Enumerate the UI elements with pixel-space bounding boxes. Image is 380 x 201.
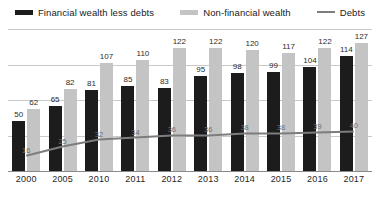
x-axis-tick-label: 2016 <box>299 174 335 190</box>
chart-legend: Financial wealth less debts Non-financia… <box>0 0 380 24</box>
bar-value-label: 120 <box>245 39 258 48</box>
bar-financial-wealth-less-debts: 85 <box>121 86 134 172</box>
x-axis-tick-label: 2015 <box>263 174 299 190</box>
bar-value-label: 110 <box>137 49 150 58</box>
bar-value-label: 122 <box>209 37 222 46</box>
bar-value-label: 65 <box>51 95 60 104</box>
bar-value-label: 85 <box>123 75 132 84</box>
bar-non-financial-wealth: 127 <box>355 43 368 172</box>
bar-value-label: 122 <box>173 37 186 46</box>
bar-non-financial-wealth: 82 <box>64 89 77 172</box>
bar-value-label: 82 <box>66 78 75 87</box>
bar-financial-wealth-less-debts: 98 <box>231 73 244 172</box>
x-axis-tick-labels: 2000200520102011201220132014201520162017 <box>8 174 372 190</box>
legend-swatch-icon-financial <box>15 10 33 15</box>
bar-value-label: 114 <box>340 45 353 54</box>
legend-item-non-financial-wealth: Non-financial wealth <box>180 7 291 18</box>
bar-group: 99117 <box>263 30 299 172</box>
x-axis-tick-label: 2011 <box>117 174 153 190</box>
bar-group: 5062 <box>8 30 44 172</box>
x-axis-tick-label: 2017 <box>336 174 372 190</box>
x-axis-line <box>8 171 372 172</box>
bar-financial-wealth-less-debts: 114 <box>340 56 353 172</box>
x-axis-tick-label: 2013 <box>190 174 226 190</box>
legend-item-financial-wealth-less-debts: Financial wealth less debts <box>15 7 154 18</box>
bar-value-label: 62 <box>29 98 38 107</box>
bar-group: 6582 <box>44 30 80 172</box>
bar-financial-wealth-less-debts: 104 <box>303 67 316 172</box>
bar-non-financial-wealth: 117 <box>282 53 295 172</box>
legend-label-financial: Financial wealth less debts <box>38 7 154 18</box>
bar-non-financial-wealth: 120 <box>246 50 259 172</box>
bar-non-financial-wealth: 110 <box>136 60 149 172</box>
x-axis-tick-label: 2014 <box>226 174 262 190</box>
bar-non-financial-wealth: 122 <box>318 48 331 172</box>
bar-value-label: 81 <box>87 79 96 88</box>
bar-value-label: 107 <box>100 52 113 61</box>
bar-non-financial-wealth: 122 <box>209 48 222 172</box>
x-axis-tick-label: 2000 <box>8 174 44 190</box>
x-axis-tick-label: 2010 <box>81 174 117 190</box>
legend-swatch-icon-nonfinancial <box>180 10 198 15</box>
x-axis-tick-label: 2012 <box>154 174 190 190</box>
legend-label-nonfinancial: Non-financial wealth <box>203 7 291 18</box>
bar-group: 95122 <box>190 30 226 172</box>
bar-value-label: 117 <box>282 42 295 51</box>
legend-swatch-icon-debts <box>317 11 335 13</box>
bar-financial-wealth-less-debts: 65 <box>49 106 62 172</box>
bar-group: 114127 <box>336 30 372 172</box>
bar-financial-wealth-less-debts: 83 <box>158 88 171 172</box>
bar-group: 83122 <box>154 30 190 172</box>
x-axis-tick-label: 2005 <box>44 174 80 190</box>
bar-non-financial-wealth: 107 <box>100 63 113 172</box>
bar-group: 98120 <box>226 30 262 172</box>
bar-value-label: 98 <box>233 62 242 71</box>
bar-value-label: 95 <box>196 65 205 74</box>
bar-value-label: 122 <box>318 37 331 46</box>
bar-financial-wealth-less-debts: 81 <box>85 90 98 172</box>
bar-groups: 5062658281107851108312295122981209911710… <box>8 30 372 172</box>
legend-item-debts: Debts <box>317 7 365 18</box>
bar-non-financial-wealth: 122 <box>173 48 186 172</box>
bar-financial-wealth-less-debts: 99 <box>267 72 280 172</box>
bar-value-label: 104 <box>303 56 316 65</box>
chart-container: Financial wealth less debts Non-financia… <box>0 0 380 201</box>
bar-financial-wealth-less-debts: 50 <box>12 121 25 172</box>
bar-group: 104122 <box>299 30 335 172</box>
bar-value-label: 83 <box>160 77 169 86</box>
bar-group: 81107 <box>81 30 117 172</box>
bar-value-label: 99 <box>269 61 278 70</box>
bar-financial-wealth-less-debts: 95 <box>194 76 207 172</box>
plot-area: 5062658281107851108312295122981209911710… <box>8 30 372 172</box>
bar-group: 85110 <box>117 30 153 172</box>
bar-value-label: 127 <box>355 32 368 41</box>
bar-value-label: 50 <box>14 110 23 119</box>
legend-label-debts: Debts <box>340 7 365 18</box>
bar-non-financial-wealth: 62 <box>27 109 40 172</box>
